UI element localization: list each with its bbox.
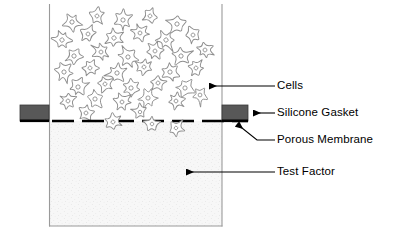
cell-nucleus (129, 86, 134, 91)
cell-nucleus (93, 97, 98, 102)
label-porous-membrane: Porous Membrane (277, 134, 373, 146)
label-cells: Cells (277, 80, 303, 92)
cell-nucleus (168, 70, 173, 75)
cell-nucleus (183, 86, 188, 91)
label-silicone-gasket: Silicone Gasket (277, 107, 358, 119)
cell-nucleus (138, 31, 143, 36)
silicone-gasket-left (20, 105, 49, 121)
cell-nucleus (146, 96, 150, 100)
label-test-factor: Test Factor (277, 166, 335, 178)
diagram-canvas (0, 0, 406, 243)
silicone-gasket-left-seal (20, 120, 49, 123)
cell-nucleus (121, 18, 126, 23)
test-factor-fill (50, 121, 223, 226)
leader-porous-membrane (237, 124, 275, 140)
silicone-gasket-right-seal (222, 120, 248, 123)
cell-nucleus (138, 110, 142, 114)
cell-migration-assay-figure: Cells Silicone Gasket Porous Membrane Te… (0, 0, 406, 243)
cell-nucleus (76, 85, 81, 90)
test-factor-region (50, 121, 223, 226)
cell-nucleus (198, 93, 202, 97)
silicone-gasket-right (222, 105, 248, 121)
cell-nucleus (86, 32, 91, 37)
